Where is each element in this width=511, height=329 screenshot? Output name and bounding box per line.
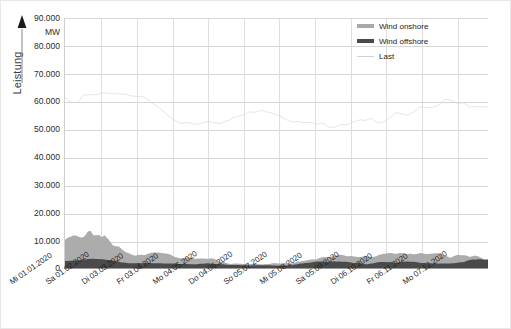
y-tick-label: 90.000 [2,14,60,23]
y-tick-label: 80.000 [2,42,60,51]
legend-swatch-last [357,56,374,57]
legend: Wind onshore Wind offshore Last [357,20,487,65]
y-tick-label: 20.000 [2,209,60,218]
legend-swatch-wind-onshore [357,24,374,28]
legend-item-wind-onshore: Wind onshore [357,20,487,32]
legend-item-last: Last [357,50,487,62]
chart-figure: Leistung 90.000 MW 80.000 70.000 60.000 … [0,0,511,329]
legend-label-wind-onshore: Wind onshore [379,22,428,31]
y-axis-unit-label: MW [2,27,60,37]
legend-label-wind-offshore: Wind offshore [379,37,428,46]
legend-item-wind-offshore: Wind offshore [357,35,487,47]
y-tick-label: 70.000 [2,70,60,79]
y-tick-label: 60.000 [2,97,60,106]
legend-swatch-wind-offshore [357,39,374,43]
y-tick-label: 50.000 [2,125,60,134]
y-tick-label: 10.000 [2,237,60,246]
y-tick-label: 30.000 [2,181,60,190]
y-tick-label: 40.000 [2,153,60,162]
legend-label-last: Last [379,52,394,61]
